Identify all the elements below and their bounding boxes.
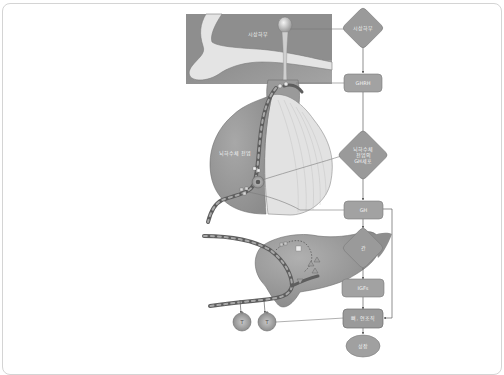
node-pituitary-label-3: GH세포	[343, 158, 383, 164]
target-cells	[233, 300, 276, 331]
target-cell-2-label: T	[257, 319, 277, 325]
target-cell-1-label: T	[232, 319, 252, 325]
node-growth-label: 성장	[343, 343, 383, 349]
node-ghrh-label: GHRH	[344, 80, 382, 86]
hypothalamic-neuron	[278, 17, 292, 33]
label-hypothalamus-anatomy: 시상하부	[241, 31, 275, 37]
label-anterior-pituitary: 뇌하수체 전엽	[215, 150, 255, 156]
node-liver-label: 간	[343, 245, 383, 251]
node-gh-label: GH	[344, 207, 383, 213]
node-hypothalamus-label: 시상하부	[343, 25, 383, 31]
brain-region	[186, 14, 332, 84]
node-igfs-label: IGFs	[342, 285, 384, 291]
flowchart	[338, 7, 392, 357]
node-bone-soft-tissue-label: 뼈, 연조직	[343, 315, 383, 321]
